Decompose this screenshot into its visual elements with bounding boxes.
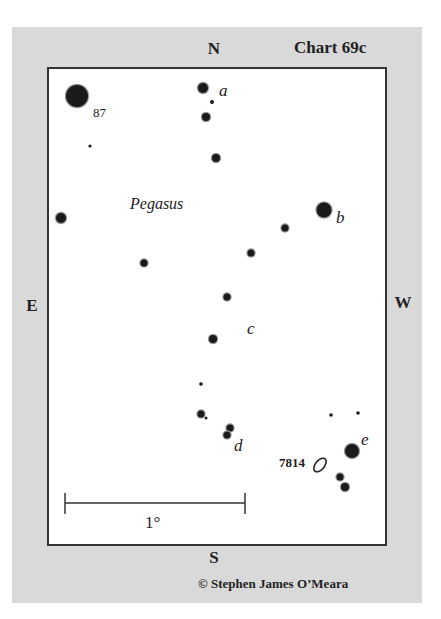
star-label-b: b	[336, 208, 345, 227]
galaxy-7814-icon	[311, 456, 328, 474]
star-icon	[199, 382, 203, 386]
star-field: 1° 87 a b c d e Pegasus 7814	[0, 0, 441, 619]
scale-bar-label: 1°	[145, 513, 160, 532]
star-icon	[210, 100, 214, 104]
star-label-e: e	[361, 430, 369, 449]
star-icon	[141, 260, 148, 267]
constellation-label: Pegasus	[129, 195, 183, 213]
star-icon	[356, 411, 360, 415]
star-label-d: d	[234, 436, 243, 455]
star-icon	[337, 474, 344, 481]
star-icon	[329, 413, 333, 417]
star-icon	[198, 83, 208, 93]
star-icon	[209, 335, 217, 343]
star-icon	[345, 444, 359, 458]
star-label-a: a	[219, 81, 228, 100]
stars-group	[55, 82, 360, 492]
scale-bar	[65, 493, 245, 514]
star-icon	[224, 432, 231, 439]
star-icon	[317, 203, 332, 218]
star-icon	[198, 411, 205, 418]
star-icon	[212, 154, 220, 162]
star-label-87: 87	[93, 105, 107, 120]
star-icon	[66, 85, 88, 107]
star-icon	[248, 250, 255, 257]
star-icon	[224, 294, 231, 301]
star-icon	[202, 113, 210, 121]
star-icon	[88, 144, 91, 147]
star-label-c: c	[247, 319, 255, 338]
galaxy-7814-label: 7814	[279, 455, 306, 470]
star-icon	[205, 417, 208, 420]
star-icon	[282, 225, 289, 232]
star-icon	[56, 213, 66, 223]
star-icon	[341, 483, 349, 491]
